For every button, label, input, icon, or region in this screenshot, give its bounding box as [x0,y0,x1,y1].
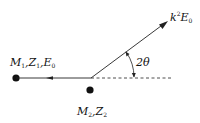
scattered-arrowhead-icon [159,21,168,29]
angle-label: 2θ [136,57,150,68]
incident-arrowhead-icon [46,76,53,79]
angle-arrowhead-bottom-icon [132,73,136,78]
target-particle-label: M2,Z2 [77,106,107,118]
target-particle-dot [86,86,93,93]
scattered-energy-label: k2E0 [170,11,192,24]
scattered-path-line [91,23,165,78]
incident-particle-label: M1,Z1,E0 [10,57,55,69]
